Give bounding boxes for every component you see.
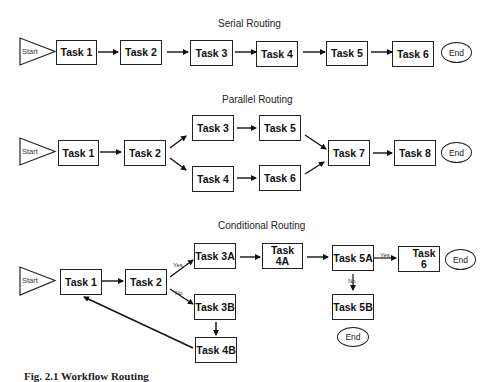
conditional-task-5a[interactable]: Task 5A: [332, 245, 374, 271]
no-label-task5a-to-5b: No: [348, 278, 356, 284]
no-label-task2-to-3b: No: [175, 290, 183, 296]
serial-task-2[interactable]: Task 2: [120, 40, 162, 65]
conditional-task-4b[interactable]: Task 4B: [195, 337, 237, 363]
yes-label-task2-to-3a: Yes: [173, 262, 183, 268]
figure-caption: Fig. 2.1 Workflow Routing: [24, 370, 149, 382]
parallel-task-4[interactable]: Task 4: [192, 166, 234, 192]
serial-task-5[interactable]: Task 5: [326, 41, 368, 66]
parallel-task-6[interactable]: Task 6: [259, 165, 301, 191]
serial-routing-title: Serial Routing: [218, 18, 281, 29]
serial-task-1[interactable]: Task 1: [56, 40, 97, 65]
conditional-task-3b[interactable]: Task 3B: [194, 294, 236, 320]
parallel-start-label: Start: [22, 147, 38, 156]
parallel-end[interactable]: End: [441, 142, 472, 163]
parallel-routing-title: Parallel Routing: [222, 94, 293, 105]
parallel-task-1[interactable]: Task 1: [58, 140, 99, 166]
conditional-task-2[interactable]: Task 2: [125, 269, 167, 295]
parallel-task-7[interactable]: Task 7: [328, 140, 370, 166]
parallel-task-2[interactable]: Task 2: [124, 140, 166, 166]
parallel-task-3[interactable]: Task 3: [192, 115, 234, 141]
serial-task-3[interactable]: Task 3: [190, 40, 233, 66]
conditional-routing-title: Conditional Routing: [218, 220, 305, 231]
serial-start-label: Start: [22, 47, 38, 56]
conditional-task-5b[interactable]: Task 5B: [332, 294, 374, 320]
conditional-task-1[interactable]: Task 1: [60, 269, 102, 295]
conditional-task-6[interactable]: Task 6: [398, 246, 440, 272]
serial-end[interactable]: End: [441, 42, 472, 63]
yes-label-task5a-to-6: Yes: [380, 252, 390, 258]
conditional-start-label: Start: [22, 276, 38, 285]
conditional-end-1[interactable]: End: [445, 249, 476, 270]
conditional-task-3a[interactable]: Task 3A: [194, 243, 236, 269]
serial-task-6[interactable]: Task 6: [392, 41, 434, 67]
conditional-task-4a[interactable]: Task 4A: [262, 243, 303, 269]
conditional-end-2[interactable]: End: [337, 327, 369, 347]
parallel-task-5[interactable]: Task 5: [259, 115, 301, 141]
parallel-task-8[interactable]: Task 8: [394, 140, 436, 166]
serial-task-4[interactable]: Task 4: [256, 41, 298, 67]
